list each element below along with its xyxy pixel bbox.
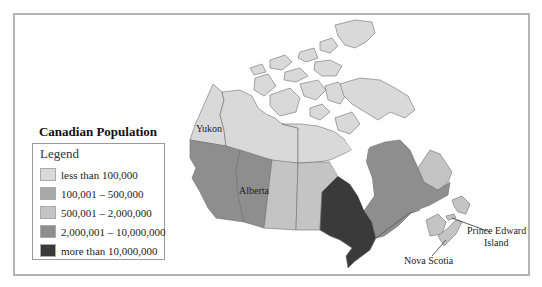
legend-item: 500,001 – 2,000,000 bbox=[40, 204, 152, 221]
legend-swatch bbox=[40, 244, 56, 257]
legend-label: more than 10,000,000 bbox=[61, 245, 158, 257]
legend-swatch bbox=[40, 225, 56, 238]
label-pei-line2: Island bbox=[484, 237, 508, 248]
legend: Legend less than 100,000 100,001 – 500,0… bbox=[32, 143, 165, 260]
label-nova-scotia: Nova Scotia bbox=[404, 255, 453, 266]
legend-label: 100,001 – 500,000 bbox=[61, 188, 144, 200]
newfoundland bbox=[452, 196, 470, 214]
label-alberta: Alberta bbox=[239, 185, 269, 196]
legend-label: 2,000,001 – 10,000,000 bbox=[61, 226, 166, 238]
legend-heading: Legend bbox=[40, 146, 79, 162]
legend-label: 500,001 – 2,000,000 bbox=[61, 207, 152, 219]
legend-item: 2,000,001 – 10,000,000 bbox=[40, 223, 166, 240]
map-title: Canadian Population bbox=[30, 124, 166, 140]
legend-item: more than 10,000,000 bbox=[40, 242, 158, 259]
legend-item: less than 100,000 bbox=[40, 166, 138, 183]
legend-swatch bbox=[40, 206, 56, 219]
legend-item: 100,001 – 500,000 bbox=[40, 185, 144, 202]
legend-swatch bbox=[40, 187, 56, 200]
legend-swatch bbox=[40, 168, 56, 181]
arctic-islands bbox=[250, 20, 415, 134]
label-pei-line1: Prince Edward bbox=[467, 225, 526, 236]
label-yukon: Yukon bbox=[196, 123, 222, 134]
legend-label: less than 100,000 bbox=[61, 169, 138, 181]
british-columbia bbox=[190, 140, 244, 222]
